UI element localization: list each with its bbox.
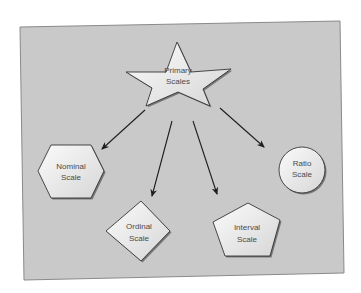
primary-scales-label-1: Primary	[164, 66, 192, 75]
ordinal-label-1: Ordinal	[126, 222, 152, 231]
nominal-label-2: Scale	[61, 173, 82, 182]
interval-label-1: Interval	[234, 223, 260, 232]
diagram-canvas: Primary Scales Nominal Scale Ordinal Sca…	[0, 0, 361, 293]
ordinal-label-2: Scale	[129, 234, 150, 243]
ratio-label-1: Ratio	[293, 159, 312, 168]
interval-label-2: Scale	[237, 235, 258, 244]
nominal-scale-node: Nominal Scale	[38, 145, 106, 200]
ratio-label-2: Scale	[292, 170, 313, 179]
primary-scales-label-2: Scales	[166, 77, 190, 86]
nominal-label-1: Nominal	[56, 162, 86, 171]
